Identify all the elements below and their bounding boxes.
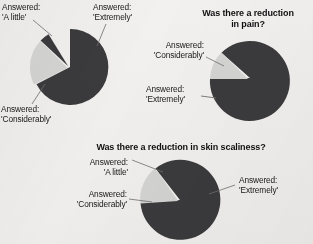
pie3-leader-a-little bbox=[132, 160, 163, 172]
pie3-label-a-little: Answered: 'A little' bbox=[66, 158, 128, 177]
pie3-label-extremely: Answered: 'Extremely' bbox=[239, 176, 278, 195]
pie-skin-scaliness-graphic bbox=[0, 0, 313, 244]
figure-canvas: Answered: 'A little' Answered: 'Extremel… bbox=[0, 0, 313, 244]
pie3-label-considerably: Answered: 'Considerably' bbox=[55, 190, 127, 209]
